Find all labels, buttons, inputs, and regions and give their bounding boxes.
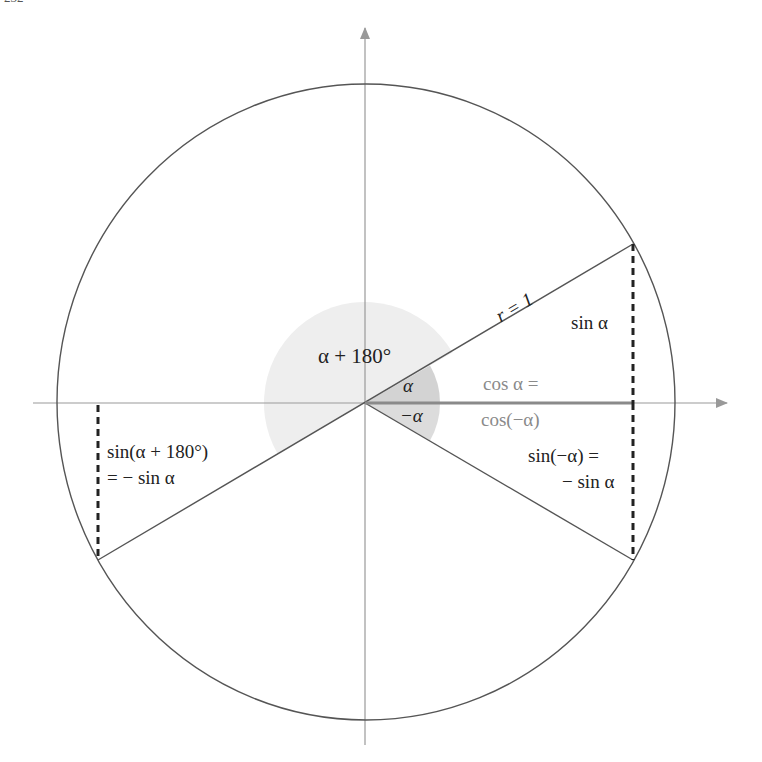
- label-alpha: α: [403, 375, 413, 397]
- label-sin-alpha-180-2: = − sin α: [107, 467, 175, 489]
- label-alpha-plus-180: α + 180°: [318, 345, 391, 367]
- label-minus-alpha: −α: [400, 405, 423, 427]
- label-sin-alpha: sin α: [571, 312, 608, 334]
- label-cos-alpha-1: cos α =: [483, 373, 539, 395]
- label-sin-minus-alpha-1: sin(−α) =: [528, 445, 599, 467]
- unit-circle-diagram: [0, 0, 762, 762]
- label-sin-minus-alpha-2: − sin α: [562, 471, 614, 493]
- label-cos-alpha-2: cos(−α): [481, 409, 540, 431]
- label-sin-alpha-180-1: sin(α + 180°): [107, 441, 208, 463]
